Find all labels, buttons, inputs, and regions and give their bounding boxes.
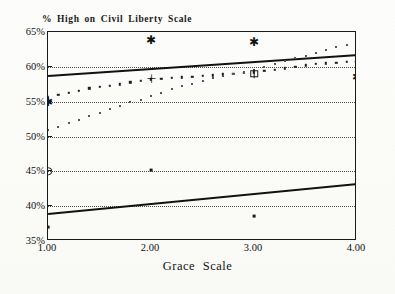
data-point	[47, 129, 49, 131]
data-point	[170, 77, 172, 79]
data-marker-plus: ＋	[146, 74, 157, 85]
data-marker-circle	[47, 168, 52, 176]
y-axis-tick-mark	[47, 101, 52, 102]
data-point	[57, 126, 59, 128]
data-point	[139, 80, 141, 82]
x-axis-tick-label: 3.00	[244, 242, 262, 253]
data-marker-dot	[253, 215, 256, 218]
data-point	[98, 86, 100, 88]
data-point	[335, 46, 337, 48]
gridline	[48, 137, 355, 138]
data-point	[78, 89, 80, 91]
gridline	[48, 67, 355, 68]
data-point	[99, 112, 101, 114]
data-point	[305, 55, 307, 57]
data-point	[263, 70, 265, 72]
y-axis-tick-mark	[47, 66, 52, 67]
data-point	[109, 84, 111, 86]
data-point	[109, 108, 111, 110]
data-point	[232, 73, 234, 75]
data-point	[222, 75, 224, 77]
y-axis-labels: 35%40%45%50%55%60%65%	[0, 31, 45, 240]
data-point	[140, 99, 142, 101]
x-axis-tick-label: 1.00	[38, 242, 56, 253]
data-point	[67, 91, 69, 93]
gridline	[48, 171, 355, 172]
data-point	[284, 67, 286, 69]
data-point	[325, 49, 327, 51]
data-point	[212, 77, 214, 79]
y-axis-tick-mark	[47, 170, 52, 171]
data-point	[294, 66, 296, 68]
data-point	[274, 63, 276, 65]
y-axis-tick-mark	[47, 136, 52, 137]
data-point	[315, 63, 317, 65]
data-marker-asterisk: ✱	[47, 96, 53, 108]
data-point	[129, 81, 131, 83]
data-point	[335, 61, 337, 63]
data-point	[263, 66, 265, 68]
data-point	[201, 75, 203, 77]
x-axis-title: Grace Scale	[0, 259, 395, 274]
y-axis-tick-label: 45%	[26, 165, 45, 176]
data-point	[181, 76, 183, 78]
data-point	[129, 101, 131, 103]
data-point	[243, 71, 245, 73]
data-marker-asterisk: ✱	[352, 71, 356, 83]
gridline	[48, 102, 355, 103]
chart-figure: % High on Civil Liberty Scale ✱✱＋✱✱ 35%4…	[0, 0, 395, 294]
regression-line	[48, 183, 356, 215]
data-point	[150, 95, 152, 97]
data-point	[57, 93, 59, 95]
y-axis-tick-label: 55%	[26, 95, 45, 106]
data-point	[160, 92, 162, 94]
data-point	[88, 115, 90, 117]
data-point	[284, 60, 286, 62]
data-point	[68, 122, 70, 124]
data-marker-asterisk: ✱	[249, 36, 259, 48]
data-point	[202, 80, 204, 82]
y-axis-tick-label: 65%	[26, 26, 45, 37]
data-point	[273, 68, 275, 70]
data-point	[191, 75, 193, 77]
data-point	[119, 83, 121, 85]
y-axis-tick-label: 50%	[26, 130, 45, 141]
chart-title: % High on Civil Liberty Scale	[42, 14, 192, 24]
plot-area: ✱✱＋✱✱	[47, 31, 356, 240]
data-point	[78, 119, 80, 121]
data-point	[304, 64, 306, 66]
data-point	[315, 52, 317, 54]
data-point	[294, 57, 296, 59]
gridline	[48, 206, 355, 207]
y-axis-tick-label: 40%	[26, 200, 45, 211]
y-axis-tick-mark	[47, 205, 52, 206]
data-marker-bigdot	[355, 60, 356, 65]
data-point	[345, 61, 347, 63]
data-marker-squareplus	[250, 70, 258, 78]
data-point	[325, 62, 327, 64]
data-point	[160, 77, 162, 79]
data-marker-dot	[47, 226, 49, 229]
data-point	[191, 83, 193, 85]
data-point	[181, 85, 183, 87]
data-marker-asterisk: ✱	[146, 34, 156, 46]
x-axis-tick-label: 4.00	[347, 242, 365, 253]
data-point	[346, 44, 348, 46]
data-point	[171, 88, 173, 90]
x-axis-tick-label: 2.00	[141, 242, 159, 253]
data-marker-dot	[150, 169, 153, 172]
x-axis-labels: 1.002.003.004.00	[0, 242, 395, 258]
data-point	[88, 87, 90, 89]
y-axis-tick-label: 60%	[26, 60, 45, 71]
data-point	[119, 105, 121, 107]
